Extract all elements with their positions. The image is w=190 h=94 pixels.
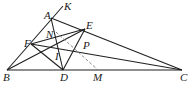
label-A: A (43, 9, 51, 21)
label-D: D (59, 71, 68, 83)
segment-CF (31, 44, 182, 70)
label-C: C (180, 71, 188, 83)
label-P: P (82, 39, 90, 51)
label-M: M (92, 71, 103, 83)
label-F: F (23, 37, 31, 49)
label-N: N (45, 28, 54, 40)
segment-FE (31, 29, 85, 44)
label-E: E (85, 19, 93, 31)
label-K: K (63, 0, 72, 12)
dashed-segment-NM (56, 32, 98, 70)
segment-AC (51, 18, 182, 70)
geometry-figure: A K B C D M E F I P N (0, 0, 190, 94)
label-B: B (3, 71, 10, 83)
